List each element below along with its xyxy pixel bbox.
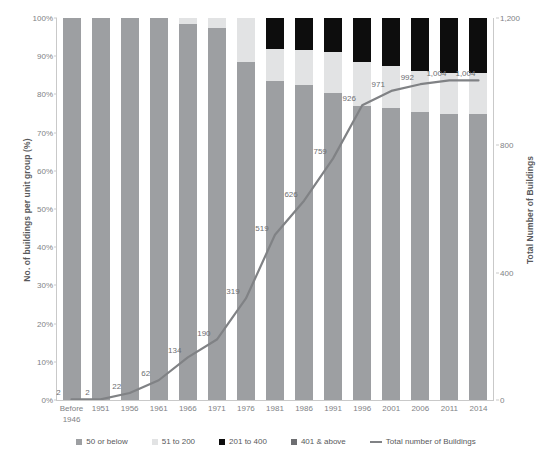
tick-mark bbox=[496, 272, 499, 273]
line-swatch bbox=[370, 441, 382, 443]
y-axis-left-tick-label: 20% bbox=[37, 319, 53, 328]
square-swatch-dark-gray bbox=[291, 439, 297, 445]
legend-item-3[interactable]: 401 & above bbox=[291, 437, 346, 446]
line-point-label: 992 bbox=[401, 73, 414, 82]
line-point-label: 759 bbox=[313, 147, 326, 156]
y-axis-right-line bbox=[493, 18, 494, 401]
line-point-label: 2 bbox=[56, 388, 60, 397]
legend-item-label: 50 or below bbox=[86, 437, 127, 446]
legend-item-label: Total number of Buildings bbox=[386, 437, 476, 446]
line-point-label: 22 bbox=[112, 382, 121, 391]
legend-item-label: 51 to 200 bbox=[162, 437, 195, 446]
y-axis-left-tick-label: 60% bbox=[37, 166, 53, 175]
line-point-label: 626 bbox=[284, 190, 297, 199]
x-axis-tick-label: 2014 bbox=[455, 404, 501, 415]
legend-item-4[interactable]: Total number of Buildings bbox=[370, 437, 476, 446]
y-axis-right-tick-label: 1,200 bbox=[500, 14, 520, 23]
line-point-label: 62 bbox=[141, 369, 150, 378]
y-axis-left-tick-label: 100% bbox=[33, 14, 53, 23]
square-swatch-gray bbox=[76, 439, 82, 445]
line-point-label: 1,004 bbox=[455, 69, 475, 78]
line-point-label: 134 bbox=[168, 346, 181, 355]
chart-legend: 50 or below51 to 200201 to 400401 & abov… bbox=[0, 437, 552, 446]
line-point-label: 2 bbox=[85, 388, 89, 397]
line-point-label: 190 bbox=[197, 329, 210, 338]
square-swatch-light-gray bbox=[152, 439, 158, 445]
tick-mark bbox=[496, 145, 499, 146]
tick-mark bbox=[496, 18, 499, 19]
legend-item-label: 401 & above bbox=[301, 437, 346, 446]
square-swatch-black bbox=[219, 439, 225, 445]
y-axis-left-tick-label: 50% bbox=[37, 205, 53, 214]
legend-item-2[interactable]: 201 to 400 bbox=[219, 437, 267, 446]
legend-item-label: 201 to 400 bbox=[229, 437, 267, 446]
y-axis-right-title: Total Number of Buildings bbox=[525, 135, 535, 285]
y-axis-left-tick-label: 30% bbox=[37, 281, 53, 290]
y-axis-right-tick-label: 400 bbox=[500, 268, 513, 277]
line-point-label: 971 bbox=[372, 80, 385, 89]
y-axis-left-tick-label: 70% bbox=[37, 128, 53, 137]
legend-item-1[interactable]: 51 to 200 bbox=[152, 437, 195, 446]
y-axis-left-title: No. of buildings per unit group (%) bbox=[22, 135, 32, 285]
x-axis-line bbox=[56, 400, 494, 401]
y-axis-left-tick-label: 10% bbox=[37, 357, 53, 366]
line-point-label: 1,004 bbox=[426, 69, 446, 78]
legend-item-0[interactable]: 50 or below bbox=[76, 437, 127, 446]
y-axis-left-tick-label: 90% bbox=[37, 52, 53, 61]
x-axis-tick-label-line2: 1946 bbox=[49, 415, 95, 426]
stacked-bar-line-chart: No. of buildings per unit group (%) Tota… bbox=[0, 0, 552, 456]
chart-title bbox=[0, 0, 552, 6]
line-point-label: 319 bbox=[226, 287, 239, 296]
line-point-label: 926 bbox=[343, 94, 356, 103]
line-point-label: 519 bbox=[255, 224, 268, 233]
y-axis-left-tick-label: 80% bbox=[37, 90, 53, 99]
y-axis-right-tick-label: 800 bbox=[500, 141, 513, 150]
tick-mark bbox=[496, 400, 499, 401]
y-axis-left-tick-label: 40% bbox=[37, 243, 53, 252]
